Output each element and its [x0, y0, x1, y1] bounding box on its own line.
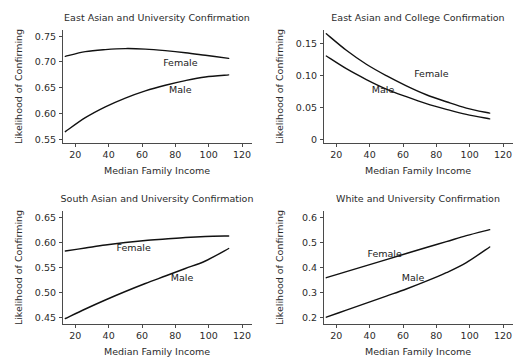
x-tick-label: 80: [430, 149, 442, 160]
x-axis-title: Median Family Income: [365, 346, 471, 357]
chart-panel-east-asian-university: East Asian and University Confirmation0.…: [0, 0, 260, 181]
chart-svg: East Asian and College Confirmation00.05…: [261, 0, 521, 181]
y-tick-label: 0.75: [35, 31, 56, 42]
series-label-female: Female: [116, 242, 151, 253]
x-tick-label: 20: [69, 149, 81, 160]
x-tick-label: 120: [494, 330, 512, 341]
panel-title: East Asian and College Confirmation: [331, 12, 504, 23]
x-tick-label: 20: [330, 149, 342, 160]
y-axis-title: Likelihood of Confirming: [274, 210, 285, 325]
y-tick-label: 0.60: [35, 108, 56, 119]
y-axis-title: Likelihood of Confirming: [13, 210, 24, 325]
x-axis-title: Median Family Income: [104, 165, 210, 176]
x-axis-title: Median Family Income: [365, 165, 471, 176]
y-tick-label: 0.65: [35, 212, 56, 223]
y-axis-title: Likelihood of Confirming: [274, 29, 285, 144]
x-tick-label: 120: [233, 149, 251, 160]
series-label-female: Female: [367, 248, 402, 259]
y-tick-label: 0.55: [35, 262, 56, 273]
series-label-female: Female: [414, 68, 449, 79]
series-curve-female: [326, 230, 489, 278]
x-tick-label: 100: [200, 149, 218, 160]
y-tick-label: 0.2: [302, 312, 317, 323]
y-tick-label: 0.10: [296, 70, 317, 81]
x-axis-title: Median Family Income: [104, 346, 210, 357]
y-tick-label: 0: [311, 134, 317, 145]
x-tick-label: 80: [430, 330, 442, 341]
y-tick-label: 0.5: [302, 237, 317, 248]
x-tick-label: 60: [136, 149, 148, 160]
chart-panel-south-asian-university: South Asian and University Confirmation0…: [0, 181, 260, 362]
panel-title: East Asian and University Confirmation: [64, 12, 250, 23]
series-curve-female: [326, 34, 489, 113]
chart-panel-white-university: White and University Confirmation0.20.30…: [261, 181, 521, 362]
y-tick-label: 0.60: [35, 237, 56, 248]
chart-svg: East Asian and University Confirmation0.…: [0, 0, 260, 181]
series-label-male: Male: [169, 84, 192, 95]
y-tick-label: 0.55: [35, 134, 56, 145]
x-tick-label: 20: [330, 330, 342, 341]
y-tick-label: 0.6: [302, 212, 317, 223]
y-tick-label: 0.3: [302, 287, 317, 298]
axis-lines: [324, 30, 514, 144]
chart-svg: South Asian and University Confirmation0…: [0, 181, 260, 362]
series-label-male: Male: [372, 84, 395, 95]
y-tick-label: 0.65: [35, 82, 56, 93]
series-curve-male: [326, 56, 489, 119]
x-tick-label: 60: [136, 330, 148, 341]
series-curve-male: [65, 249, 228, 319]
chart-panel-east-asian-college: East Asian and College Confirmation00.05…: [261, 0, 521, 181]
series-label-male: Male: [402, 272, 425, 283]
y-tick-label: 0.45: [35, 312, 56, 323]
y-axis-title: Likelihood of Confirming: [13, 29, 24, 144]
x-tick-label: 80: [169, 330, 181, 341]
x-tick-label: 100: [461, 149, 479, 160]
x-tick-label: 20: [69, 330, 81, 341]
series-label-female: Female: [163, 57, 198, 68]
x-tick-label: 40: [103, 149, 115, 160]
panel-title: White and University Confirmation: [336, 193, 500, 204]
x-tick-label: 40: [364, 330, 376, 341]
x-tick-label: 80: [169, 149, 181, 160]
series-label-male: Male: [171, 272, 194, 283]
panel-title: South Asian and University Confirmation: [61, 193, 254, 204]
x-tick-label: 60: [397, 149, 409, 160]
x-tick-label: 60: [397, 330, 409, 341]
chart-svg: White and University Confirmation0.20.30…: [261, 181, 521, 362]
y-tick-label: 0.4: [302, 262, 317, 273]
x-tick-label: 120: [233, 330, 251, 341]
x-tick-label: 120: [494, 149, 512, 160]
series-curve-male: [65, 75, 228, 132]
y-tick-label: 0.70: [35, 56, 56, 67]
series-curve-female: [65, 49, 228, 59]
y-tick-label: 0.50: [35, 287, 56, 298]
y-tick-label: 0.15: [296, 38, 317, 49]
x-tick-label: 100: [200, 330, 218, 341]
y-tick-label: 0.05: [296, 102, 317, 113]
x-tick-label: 40: [364, 149, 376, 160]
multi-panel-figure: East Asian and University Confirmation0.…: [0, 0, 521, 363]
axis-lines: [63, 211, 253, 325]
x-tick-label: 40: [103, 330, 115, 341]
x-tick-label: 100: [461, 330, 479, 341]
